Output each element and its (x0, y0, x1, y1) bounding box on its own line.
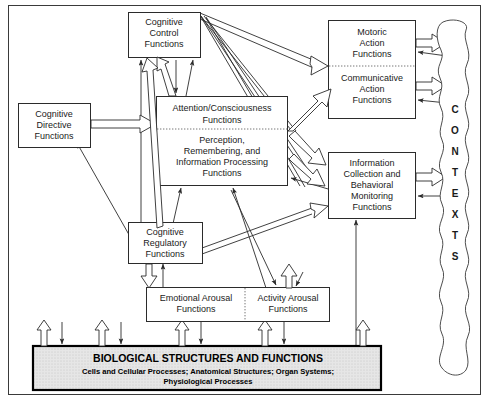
contexts-letter-5: E (452, 188, 459, 199)
biological-subline-1: Cells and Cellular Processes; Anatomical… (82, 367, 334, 376)
attention-upper-line-2: Functions (202, 115, 242, 125)
arrow-attention-to-motoric (288, 89, 331, 131)
contexts-letter-7: T (452, 230, 458, 241)
arrow-regulatory-to-info (310, 203, 328, 218)
contexts-letter-4: T (452, 167, 458, 178)
contexts-letter-2: O (451, 125, 459, 136)
motoric-lower-line-3: Functions (352, 95, 392, 105)
cognitive-directive-line-3: Functions (34, 131, 74, 141)
attention-upper-line-1: Attention/Consciousness (172, 103, 272, 113)
info-collection-line-5: Functions (352, 202, 392, 212)
cognitive-control-line-2: Control (149, 28, 178, 38)
contexts-letter-6: X (452, 209, 459, 220)
contexts-letter-1: C (451, 104, 458, 115)
motoric-lower-line-1: Communicative (341, 73, 403, 83)
motoric-lower-line-2: Action (359, 84, 384, 94)
cognitive-control-line-1: Cognitive (145, 17, 183, 27)
contexts-letter-3: N (451, 146, 458, 157)
cognitive-regulatory-line-2: Regulatory (143, 238, 187, 248)
motoric-upper-line-2: Action (359, 38, 384, 48)
arrow-directive-to-attention (91, 115, 156, 133)
contexts-letter-8: S (452, 251, 459, 262)
cognitive-directive-line-1: Cognitive (35, 109, 73, 119)
attention-lower-line-3: Information Processing (176, 157, 268, 167)
box-arousal[interactable]: Emotional Arousal Functions Activity Aro… (147, 288, 330, 322)
biological-exchange-arrows (37, 320, 370, 346)
contexts-column: C O N T E X T S (437, 20, 470, 375)
info-collection-line-3: Behavioral (351, 180, 394, 190)
cognitive-regulatory-line-3: Functions (145, 249, 185, 259)
arrow-control-to-motoric (310, 56, 328, 75)
biological-heading: BIOLOGICAL STRUCTURES AND FUNCTIONS (93, 352, 323, 364)
motoric-upper-line-1: Motoric (357, 27, 387, 37)
info-collection-line-2: Collection and (343, 169, 400, 179)
info-collection-line-1: Information (349, 158, 394, 168)
diagram-canvas: BIOLOGICAL STRUCTURES AND FUNCTIONS Cell… (0, 0, 489, 400)
activity-arousal-line-1: Activity Arousal (257, 293, 318, 303)
emotional-arousal-line-1: Emotional Arousal (160, 293, 233, 303)
attention-lower-line-4: Functions (202, 168, 242, 178)
biological-structures-box: BIOLOGICAL STRUCTURES AND FUNCTIONS Cell… (33, 346, 381, 390)
emotional-arousal-line-2: Functions (176, 304, 216, 314)
box-attention-consciousness[interactable]: Attention/Consciousness Functions Percep… (157, 97, 288, 186)
box-cognitive-control[interactable]: Cognitive Control Functions (129, 13, 201, 58)
cognitive-regulatory-line-1: Cognitive (146, 227, 184, 237)
attention-lower-line-2: Remembering, and (184, 146, 261, 156)
info-collection-line-4: Monitoring (351, 191, 393, 201)
cognitive-directive-line-2: Directive (36, 120, 71, 130)
biological-subline-2: Physiological Processes (163, 377, 252, 386)
attention-lower-line-1: Perception, (199, 135, 245, 145)
box-motoric-action[interactable]: Motoric Action Functions Communicative A… (329, 21, 416, 119)
motoric-upper-line-3: Functions (352, 49, 392, 59)
arrow-attention-to-control (157, 57, 176, 96)
arrow-up-into-activity (281, 264, 297, 288)
box-cognitive-regulatory[interactable]: Cognitive Regulatory Functions (129, 223, 203, 264)
activity-arousal-line-2: Functions (268, 304, 308, 314)
arrow-regulatory-to-emotional (141, 264, 157, 288)
cognitive-control-line-3: Functions (144, 39, 184, 49)
box-cognitive-directive[interactable]: Cognitive Directive Functions (19, 104, 91, 148)
box-information-collection[interactable]: Information Collection and Behavioral Mo… (329, 153, 416, 219)
